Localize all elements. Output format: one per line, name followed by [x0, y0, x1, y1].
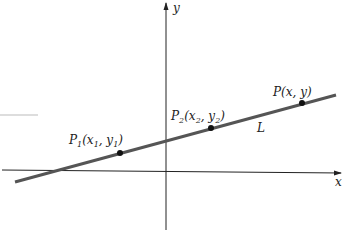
y-axis-label: y	[172, 1, 180, 15]
p-label: P(x, y)	[272, 85, 312, 99]
p2-label: P2(x2, y2)	[170, 109, 225, 125]
line-diagram: y x L P1(x1, y1) P2(x2, y2) P(x, y)	[0, 0, 343, 235]
point-p2	[208, 125, 214, 131]
p1-label: P1(x1, y1)	[68, 133, 123, 149]
line-label: L	[256, 121, 265, 135]
point-p1	[117, 150, 123, 156]
x-axis-label: x	[335, 175, 342, 189]
point-p	[299, 100, 305, 106]
